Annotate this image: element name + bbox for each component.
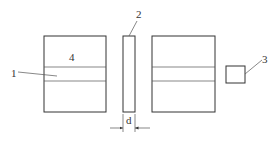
schematic-diagram: 4 1 2 d 3 xyxy=(0,0,278,141)
leader-line-2 xyxy=(129,21,137,36)
small-square xyxy=(226,66,245,83)
leader-line-3 xyxy=(245,60,262,74)
thin-plate xyxy=(123,36,135,112)
label-1: 1 xyxy=(11,67,17,79)
label-4: 4 xyxy=(69,51,75,63)
label-2: 2 xyxy=(136,8,142,20)
leader-line-1 xyxy=(18,72,57,76)
dimension-label-d: d xyxy=(126,114,132,126)
right-block xyxy=(152,36,215,112)
label-3: 3 xyxy=(262,53,268,65)
left-block xyxy=(44,36,106,112)
